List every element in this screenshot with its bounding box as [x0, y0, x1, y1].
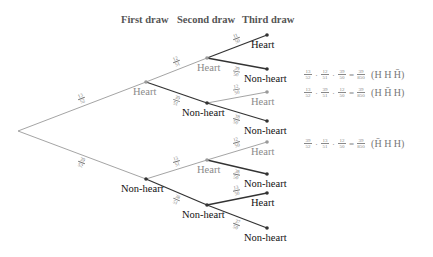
node-dot-first-1 [144, 177, 148, 181]
node-dot-third-5 [265, 172, 269, 176]
header-first-draw: First draw [121, 14, 169, 25]
label-first-0: Heart [133, 86, 156, 97]
node-dot-third-7 [265, 226, 269, 230]
label-second-3: Non-heart [182, 209, 225, 220]
formula-row-1: 1352·3951·1250=39850(H H̄ H) [304, 87, 404, 98]
label-first-1: Non-heart [121, 183, 164, 194]
node-dot-third-2 [265, 90, 269, 94]
node-dot-third-0 [265, 33, 269, 37]
node-dot-third-3 [265, 119, 269, 123]
label-third-2: Heart [251, 96, 274, 107]
label-third-5: Non-heart [244, 178, 287, 189]
header-third-draw: Third draw [242, 14, 294, 25]
formula-row-0: 1352·1251·3950=39850(H H H̄) [304, 69, 404, 80]
label-third-3: Non-heart [244, 125, 287, 136]
node-dot-first-0 [144, 80, 148, 84]
label-second-0: Heart [197, 62, 220, 73]
header-second-draw: Second draw [177, 14, 235, 25]
node-dot-third-4 [265, 140, 269, 144]
outcome-sequence: (H H̄ H) [371, 87, 404, 98]
label-third-4: Heart [251, 146, 274, 157]
node-dot-third-1 [265, 67, 269, 71]
outcome-sequence: (H H H̄) [371, 69, 404, 80]
node-dot-second-2 [205, 158, 209, 162]
branch-root-0 [18, 82, 146, 131]
label-third-6: Heart [251, 197, 274, 208]
outcome-sequence: (H̄ H H) [371, 138, 404, 149]
label-third-0: Heart [251, 39, 274, 50]
branch-root-1 [18, 131, 146, 179]
node-dot-third-6 [265, 191, 269, 195]
label-second-1: Non-heart [182, 107, 225, 118]
label-third-7: Non-heart [244, 232, 287, 243]
label-second-2: Heart [197, 164, 220, 175]
node-dot-second-0 [205, 56, 209, 60]
node-dot-second-1 [205, 101, 209, 105]
node-dot-second-3 [205, 203, 209, 207]
label-third-1: Non-heart [244, 73, 287, 84]
formula-row-2: 3952·1351·1250=39850(H̄ H H) [304, 138, 404, 149]
